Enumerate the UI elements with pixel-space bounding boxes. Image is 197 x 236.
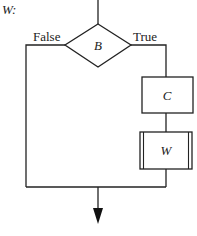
decision-label: B	[94, 38, 102, 53]
process-box-label: C	[163, 88, 172, 103]
false-branch-label: False	[33, 29, 61, 44]
false-branch-line	[26, 45, 65, 187]
flowchart: W: B False True C W	[0, 0, 197, 236]
exit-arrowhead-icon	[93, 208, 103, 224]
subroutine-box-label: W	[161, 143, 173, 158]
diagram-title: W:	[2, 2, 16, 17]
true-branch-label: True	[133, 29, 157, 44]
true-branch-line	[131, 45, 166, 77]
